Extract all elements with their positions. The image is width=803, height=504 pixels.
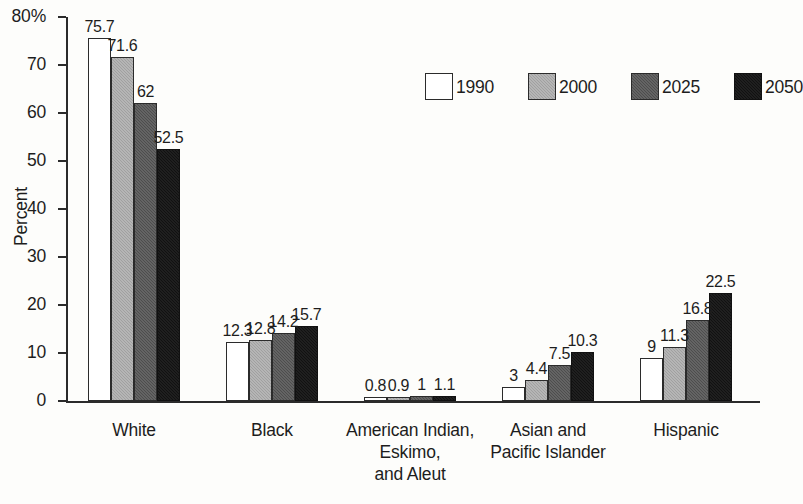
x-axis-line xyxy=(66,401,760,403)
y-axis-tick xyxy=(58,352,66,353)
y-axis-tick-label: 40 xyxy=(0,200,46,218)
light-gray-swatch xyxy=(528,73,556,100)
y-axis-line xyxy=(66,17,68,402)
white-swatch xyxy=(425,73,453,100)
bar-value-label: 10.3 xyxy=(561,333,604,349)
y-axis-tick xyxy=(58,16,66,17)
bar-value-label: 11.3 xyxy=(653,328,696,344)
bar-value-label: 22.5 xyxy=(699,274,742,290)
y-axis-tick xyxy=(58,304,66,305)
bar-1990-asian xyxy=(502,387,525,401)
bar-2000-american xyxy=(387,397,410,401)
bar-2050-black xyxy=(295,326,318,401)
legend-label: 2050 xyxy=(765,77,803,97)
y-axis-tick xyxy=(58,400,66,401)
bar-value-label: 15.7 xyxy=(285,307,328,323)
y-axis-tick-label: 50 xyxy=(0,152,46,170)
y-axis-tick xyxy=(58,160,66,161)
y-axis-tick-label: 20 xyxy=(0,296,46,314)
category-label-line: Pacific Islander xyxy=(453,441,643,463)
y-axis-tick-label: 80% xyxy=(0,8,46,26)
bar-value-label: 52.5 xyxy=(147,130,190,146)
y-axis-tick xyxy=(58,64,66,65)
y-axis-tick xyxy=(58,256,66,257)
bar-2050-white xyxy=(157,149,180,401)
bar-2000-white xyxy=(111,57,134,401)
y-axis-tick xyxy=(58,208,66,209)
legend-label: 2025 xyxy=(662,77,700,97)
bar-1990-hispanic xyxy=(640,358,663,401)
legend-label: 1990 xyxy=(456,77,494,97)
bar-1990-white xyxy=(88,38,111,401)
bar-2000-black xyxy=(249,340,272,401)
y-axis-tick xyxy=(58,112,66,113)
y-axis-tick-label: 60 xyxy=(0,104,46,122)
bar-value-label: 1.1 xyxy=(423,377,466,393)
bar-value-label: 75.7 xyxy=(78,19,121,35)
black-swatch xyxy=(734,73,762,100)
y-axis-tick-label: 0 xyxy=(0,392,46,410)
bar-2025-black xyxy=(272,333,295,401)
bar-value-label: 62 xyxy=(124,84,167,100)
bar-2050-american xyxy=(433,396,456,401)
bar-1990-american xyxy=(364,397,387,401)
category-label-line: and Aleut xyxy=(315,463,505,485)
bar-value-label: 71.6 xyxy=(101,38,144,54)
bar-1990-black xyxy=(226,342,249,401)
bar-2025-american xyxy=(410,396,433,401)
y-axis-tick-label: 70 xyxy=(0,56,46,74)
y-axis-tick-label: 10 xyxy=(0,344,46,362)
bar-2025-white xyxy=(134,103,157,401)
bar-2000-hispanic xyxy=(663,347,686,401)
bar-value-label: 16.8 xyxy=(676,301,719,317)
legend-label: 2000 xyxy=(559,77,597,97)
bar-value-label: 4.4 xyxy=(515,361,558,377)
dark-gray-swatch xyxy=(631,73,659,100)
y-axis-tick-label: 30 xyxy=(0,248,46,266)
x-axis-category-label: Hispanic xyxy=(591,419,781,441)
category-label-line: Hispanic xyxy=(591,419,781,441)
